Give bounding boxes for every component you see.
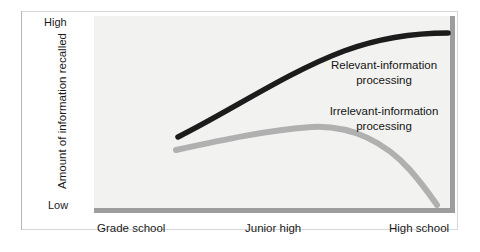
annotation-irrelevant-line1: Irrelevant-information: [308, 104, 460, 119]
annotation-irrelevant-information: Irrelevant-information processing: [308, 104, 460, 134]
annotation-irrelevant-line2: processing: [308, 119, 460, 134]
x-axis-bar: [94, 208, 455, 213]
y-axis-line: [21, 11, 22, 230]
chart-figure: High Low Amount of information recalled …: [0, 0, 480, 252]
x-axis-tick-high-school: High school: [389, 222, 449, 234]
x-axis-tick-junior-high: Junior high: [245, 222, 301, 234]
annotation-relevant-information: Relevant-information processing: [308, 58, 460, 88]
x-axis-tick-grade-school: Grade school: [97, 222, 165, 234]
annotation-relevant-line2: processing: [308, 73, 460, 88]
annotation-relevant-line1: Relevant-information: [308, 58, 460, 73]
y-axis-title: Amount of information recalled: [56, 16, 68, 206]
